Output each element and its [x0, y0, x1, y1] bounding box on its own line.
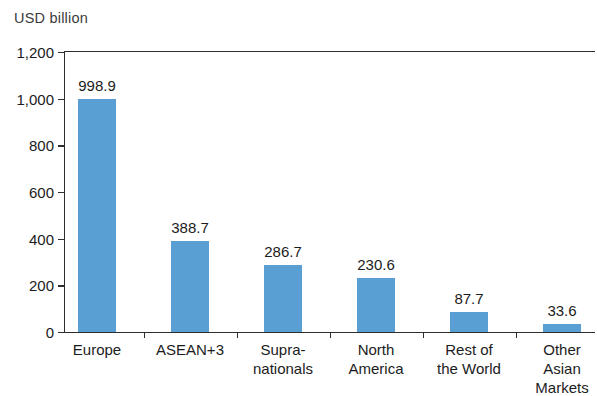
category-label: Other Asian Markets: [535, 340, 588, 396]
bar: [171, 241, 209, 332]
plot-top-border: [65, 51, 595, 52]
bar: [450, 312, 488, 332]
category-label: Europe: [73, 340, 121, 359]
x-axis-tick: [423, 332, 424, 338]
y-axis-tick-label: 1,200: [0, 44, 54, 61]
category-label: Rest of the World: [437, 340, 501, 378]
bar-value-label: 230.6: [357, 256, 395, 273]
bar: [264, 265, 302, 332]
category-label: Supra- nationals: [253, 340, 313, 378]
y-axis-tick-label: 400: [0, 230, 54, 247]
y-axis-tick: [58, 145, 65, 146]
y-axis-tick: [58, 192, 65, 193]
bar-value-label: 998.9: [78, 77, 116, 94]
bar-value-label: 286.7: [264, 243, 302, 260]
x-axis-tick: [516, 332, 517, 338]
bar-value-label: 388.7: [171, 219, 209, 236]
x-axis-tick: [330, 332, 331, 338]
y-axis-tick-labels: 1,2001,0008006004002000: [0, 0, 54, 396]
bar: [78, 99, 116, 332]
bar-value-label: 87.7: [454, 290, 483, 307]
category-label: ASEAN+3: [156, 340, 224, 359]
bar-value-label: 33.6: [547, 302, 576, 319]
bar-chart-figure: USD billion 1,2001,0008006004002000 998.…: [0, 0, 597, 396]
bar: [543, 324, 581, 332]
y-axis-tick-label: 200: [0, 277, 54, 294]
x-axis-tick: [144, 332, 145, 338]
y-axis-tick: [58, 99, 65, 100]
y-axis-tick-label: 0: [0, 324, 54, 341]
bar: [357, 278, 395, 332]
y-axis-tick-label: 1,000: [0, 90, 54, 107]
category-label: North America: [348, 340, 403, 378]
y-axis-tick: [58, 52, 65, 53]
y-axis-tick: [58, 239, 65, 240]
y-axis-tick: [58, 285, 65, 286]
x-axis-tick: [237, 332, 238, 338]
y-axis-tick-label: 600: [0, 184, 54, 201]
y-axis-tick: [58, 332, 65, 333]
y-axis-tick-label: 800: [0, 137, 54, 154]
